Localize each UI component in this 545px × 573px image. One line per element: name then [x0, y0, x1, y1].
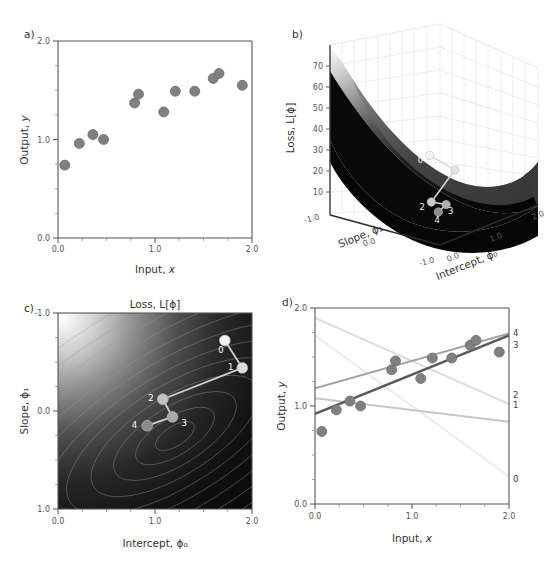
data-point — [170, 86, 180, 96]
data-point — [416, 374, 426, 384]
path-point-label: 4 — [435, 215, 440, 225]
path-point-label: 4 — [132, 420, 137, 430]
path-point — [157, 394, 168, 405]
fit-line-label: 1 — [513, 400, 518, 410]
panel-c-ytick-2: 1.0 — [37, 505, 50, 514]
path-point-label: 0 — [218, 345, 223, 355]
panel-c-xticks: 0.0 1.0 2.0 — [52, 509, 259, 526]
panel-d-ytick-2: 2.0 — [294, 304, 307, 313]
data-point — [237, 80, 247, 90]
path-point-label: 2 — [419, 202, 424, 212]
path-point — [219, 335, 230, 346]
panel-d-xtick-0: 0.0 — [309, 512, 322, 521]
panel-b-ztick-40: 40 — [313, 125, 323, 134]
panel-d-yticks: 0.0 1.0 2.0 — [294, 304, 315, 509]
fit-line-label: 4 — [513, 328, 518, 338]
data-point — [214, 69, 224, 79]
panel-c-ytick-0: -1.0 — [34, 309, 50, 318]
path-point-label: 3 — [181, 418, 186, 428]
panel-b-ztick-60: 60 — [313, 83, 323, 92]
panel-c-svg: c) Loss, L[ϕ] — [0, 286, 273, 573]
panel-c-xtick-0: 0.0 — [52, 517, 65, 526]
panel-a-svg: a) 0.0 1.0 2.0 — [0, 0, 273, 286]
panel-b-ytick-2: -1.0 — [418, 255, 435, 268]
panel-a-xtick-1: 1.0 — [149, 245, 162, 254]
panel-a: a) 0.0 1.0 2.0 — [0, 0, 273, 286]
panel-d-ytick-1: 1.0 — [294, 402, 307, 411]
panel-b-ztick-70: 70 — [313, 62, 323, 71]
panel-c-yticks: -1.0 0.0 1.0 — [34, 309, 58, 514]
panel-c-title: Loss, L[ϕ] — [130, 298, 181, 310]
panel-a-xticks: 0.0 1.0 2.0 — [52, 238, 259, 254]
panel-b-zticks: 10 20 30 40 50 60 70 — [313, 62, 330, 197]
panel-d-line-labels: 43210 — [513, 328, 518, 484]
panel-d: d) 43210 — [272, 286, 545, 573]
panel-b-ztick-50: 50 — [313, 104, 323, 113]
path-point — [237, 362, 248, 373]
panel-a-xtick-2: 2.0 — [246, 245, 259, 254]
panel-a-ylabel: Output, y — [18, 115, 30, 165]
data-point — [74, 138, 84, 148]
panel-b-ytick-0: -1.0 — [303, 212, 320, 225]
panel-a-xlabel: Input, x — [135, 263, 176, 275]
data-point — [447, 353, 457, 363]
panel-d-xticks: 0.0 1.0 2.0 — [309, 504, 516, 521]
path-point-label: 0 — [418, 155, 423, 165]
panel-a-yticks: 0.0 1.0 2.0 — [37, 37, 58, 243]
panel-b-ztick-30: 30 — [313, 146, 323, 155]
panel-a-letter: a) — [24, 28, 35, 40]
panel-a-ytick-2: 2.0 — [37, 37, 50, 46]
path-point — [425, 151, 433, 159]
panel-c-xlabel: Intercept, ϕ₀ — [122, 537, 187, 549]
panel-c-letter: c) — [24, 302, 34, 314]
data-point — [159, 107, 169, 117]
panel-c: c) Loss, L[ϕ] — [0, 286, 273, 573]
data-point — [331, 405, 341, 415]
panel-b-svg: b) — [272, 0, 545, 286]
path-point — [167, 411, 178, 422]
panel-a-xtick-0: 0.0 — [52, 245, 65, 254]
path-point-label: 1 — [457, 171, 462, 181]
panel-b-zlabel: Loss, L[ϕ] — [284, 103, 296, 154]
data-point — [60, 160, 70, 170]
panel-d-xlabel: Input, x — [392, 532, 433, 544]
panel-d-svg: d) 43210 — [272, 286, 545, 573]
data-point — [391, 356, 401, 366]
panel-d-xtick-1: 1.0 — [406, 512, 419, 521]
data-point — [88, 130, 98, 140]
panel-d-letter: d) — [282, 296, 293, 308]
fit-line-label: 0 — [513, 474, 518, 484]
panel-d-xtick-2: 2.0 — [503, 512, 516, 521]
path-point-label: 2 — [148, 393, 153, 403]
data-point — [345, 396, 355, 406]
panel-c-xtick-1: 1.0 — [149, 517, 162, 526]
data-point — [134, 89, 144, 99]
panel-c-ytick-1: 0.0 — [37, 407, 50, 416]
data-point — [99, 135, 109, 145]
panel-b-ylabel: Slope, ϕ₁ — [336, 221, 384, 250]
path-point — [142, 420, 153, 431]
panel-d-ytick-0: 0.0 — [294, 500, 307, 509]
panel-d-ylabel: Output, y — [275, 381, 287, 431]
figure-root: a) 0.0 1.0 2.0 — [0, 0, 545, 573]
panel-b-ztick-10: 10 — [313, 188, 323, 197]
panel-b: b) — [272, 0, 545, 286]
data-point — [317, 426, 327, 436]
data-point — [471, 335, 481, 345]
panel-c-xtick-2: 2.0 — [246, 517, 259, 526]
data-point — [494, 347, 504, 357]
data-point — [190, 86, 200, 96]
path-point-label: 1 — [228, 362, 233, 372]
panel-a-ytick-1: 1.0 — [37, 136, 50, 145]
panel-c-ylabel: Slope, ϕ₁ — [18, 388, 30, 435]
panel-a-ytick-0: 0.0 — [37, 234, 50, 243]
fit-line-label: 2 — [513, 390, 518, 400]
panel-b-ztick-20: 20 — [313, 167, 323, 176]
fit-line-label: 3 — [513, 340, 518, 350]
path-point-label: 3 — [448, 206, 453, 216]
panel-b-letter: b) — [292, 28, 303, 40]
data-point — [356, 401, 366, 411]
path-point — [427, 198, 435, 206]
data-point — [427, 353, 437, 363]
panel-a-scatter-points — [60, 69, 248, 171]
